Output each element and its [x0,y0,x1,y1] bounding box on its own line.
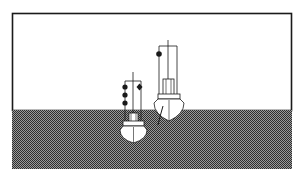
sky-area [13,14,292,111]
small-vessel-ball-signal-icon [122,84,127,89]
large-vessel-superstructure [163,79,174,95]
small-vessel-ball-signal-icon [122,100,127,105]
water-area [12,110,292,169]
large-vessel-ball-signal-icon [156,51,162,57]
small-vessel-ball-signal-icon [122,92,127,97]
ships-diagram [0,0,300,179]
